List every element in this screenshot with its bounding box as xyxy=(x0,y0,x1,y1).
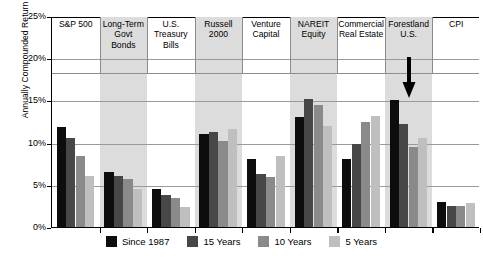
bar xyxy=(161,195,170,227)
category-header-line: Commercial xyxy=(337,19,385,29)
chart-legend: Since 198715 Years10 Years5 Years xyxy=(0,236,483,247)
category-header-line: Bonds xyxy=(100,40,148,50)
bar xyxy=(323,126,332,227)
bar xyxy=(304,99,313,227)
y-axis-tick-label: 25% xyxy=(14,12,46,21)
bar xyxy=(361,122,370,228)
bar xyxy=(437,202,446,227)
header-separator xyxy=(290,17,291,73)
category-header: NAREITEquity xyxy=(290,19,338,40)
bar xyxy=(247,159,256,227)
category-header-line: Treasury xyxy=(147,29,195,39)
bar xyxy=(371,116,380,227)
x-axis-tick-mark xyxy=(480,228,481,233)
x-axis-tick-mark xyxy=(242,228,243,233)
category-header: Russell2000 xyxy=(195,19,243,40)
bar xyxy=(276,156,285,227)
category-header-line: Russell xyxy=(195,19,243,29)
header-separator xyxy=(432,17,433,73)
bar xyxy=(209,132,218,227)
bar xyxy=(447,206,456,227)
y-axis-title: Annually Compounded Return xyxy=(20,0,30,145)
category-header: CPI xyxy=(432,19,480,29)
x-axis-tick-mark xyxy=(195,228,196,233)
legend-label: 15 Years xyxy=(203,236,240,247)
header-separator xyxy=(195,17,196,73)
x-axis-tick-mark xyxy=(290,228,291,233)
legend-swatch xyxy=(258,236,269,247)
header-separator xyxy=(100,17,101,73)
bar-chart: Annually Compounded Return 0%5%10%15%20%… xyxy=(0,0,483,261)
legend-item: 15 Years xyxy=(187,236,240,247)
y-axis-tick-mark xyxy=(47,228,51,229)
bar xyxy=(266,177,275,227)
category-header-line: S&P 500 xyxy=(52,19,100,29)
bar xyxy=(295,117,304,227)
category-header-line: Bills xyxy=(147,40,195,50)
bar xyxy=(180,207,189,227)
y-axis-tick-label: 15% xyxy=(14,96,46,105)
bar xyxy=(66,138,75,227)
bar xyxy=(123,179,132,227)
bar xyxy=(342,159,351,227)
header-separator xyxy=(385,17,386,73)
header-separator xyxy=(147,17,148,73)
bar xyxy=(57,127,66,227)
bar xyxy=(218,141,227,227)
gridline xyxy=(52,144,479,145)
category-header-line: Equity xyxy=(290,29,338,39)
legend-swatch xyxy=(106,236,117,247)
x-axis-tick-mark xyxy=(385,228,386,233)
category-header: ForestlandU.S. xyxy=(385,19,433,40)
plot-area: S&P 500Long-TermGovtBondsU.S.TreasuryBil… xyxy=(51,17,479,228)
category-header-line: U.S. xyxy=(147,19,195,29)
category-header-line: U.S. xyxy=(385,29,433,39)
y-axis-tick-label: 10% xyxy=(14,139,46,148)
bar xyxy=(171,198,180,227)
category-header-line: Venture xyxy=(242,19,290,29)
category-header-line: Govt xyxy=(100,29,148,39)
bar xyxy=(456,206,465,227)
x-axis-tick-mark xyxy=(337,228,338,233)
bar xyxy=(199,134,208,227)
category-header: S&P 500 xyxy=(52,19,100,29)
legend-item: 10 Years xyxy=(258,236,311,247)
bar xyxy=(466,203,475,227)
y-axis-tick-label: 0% xyxy=(14,223,46,232)
category-header-line: Forestland xyxy=(385,19,433,29)
legend-item: 5 Years xyxy=(329,236,377,247)
x-axis-tick-mark xyxy=(100,228,101,233)
y-axis-tick-label: 20% xyxy=(14,54,46,63)
bar xyxy=(352,144,361,227)
category-header-line: Long-Term xyxy=(100,19,148,29)
bar xyxy=(152,189,161,227)
plot-inner: S&P 500Long-TermGovtBondsU.S.TreasuryBil… xyxy=(52,17,479,227)
legend-swatch xyxy=(329,236,340,247)
bar xyxy=(114,176,123,227)
legend-label: Since 1987 xyxy=(122,236,170,247)
category-header-line: NAREIT xyxy=(290,19,338,29)
legend-label: 10 Years xyxy=(274,236,311,247)
down-arrow-icon xyxy=(402,57,416,103)
category-header: CommercialReal Estate xyxy=(337,19,385,40)
legend-label: 5 Years xyxy=(345,236,377,247)
legend-item: Since 1987 xyxy=(106,236,170,247)
category-header: VentureCapital xyxy=(242,19,290,40)
bar xyxy=(390,100,399,227)
legend-swatch xyxy=(187,236,198,247)
category-header-line: Capital xyxy=(242,29,290,39)
y-axis-tick-label: 5% xyxy=(14,181,46,190)
bar xyxy=(133,189,142,227)
bar xyxy=(104,172,113,227)
category-header-line: CPI xyxy=(432,19,480,29)
bar xyxy=(314,105,323,227)
header-separator xyxy=(242,17,243,73)
bar xyxy=(409,147,418,227)
bar xyxy=(399,124,408,227)
category-header-line: Real Estate xyxy=(337,29,385,39)
x-axis-tick-mark xyxy=(432,228,433,233)
category-header-line: 2000 xyxy=(195,29,243,39)
x-axis-tick-mark xyxy=(147,228,148,233)
category-header: U.S.TreasuryBills xyxy=(147,19,195,50)
bar xyxy=(76,156,85,227)
